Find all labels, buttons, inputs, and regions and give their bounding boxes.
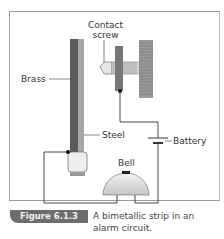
leader-lines (49, 40, 172, 141)
contact-screw-label: Contact screw (88, 20, 123, 40)
steel-label: Steel (102, 130, 125, 140)
figure-number: Figure 6.1.3 (10, 210, 88, 223)
screw-tip (100, 62, 112, 74)
strip-mount (68, 152, 87, 172)
mount-base (70, 172, 85, 176)
battery-icon (148, 138, 168, 143)
contact-screw (100, 40, 153, 98)
figure-caption: A bimetallic strip in an alarm circuit. (93, 210, 218, 234)
bell-icon (103, 171, 149, 195)
brass-label: Brass (21, 74, 46, 84)
battery-label: Battery (173, 136, 206, 146)
screw-holder (115, 46, 123, 91)
bimetallic-strip (68, 39, 87, 176)
bell-label: Bell (118, 158, 135, 168)
